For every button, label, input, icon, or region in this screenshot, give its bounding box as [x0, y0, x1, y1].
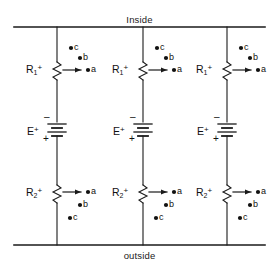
branch-2-upper-node-c-dot — [155, 46, 159, 50]
figure-canvas: Inside outside R1+ E+ – + R2+ R1+ E+ – +… — [0, 0, 279, 271]
branch-2-battery-positive-sign: + — [129, 134, 135, 144]
branch-2-lower-resistor-symbol — [139, 185, 147, 203]
outside-boundary-label: outside — [0, 250, 279, 261]
branch-3-upper-resistor-label: R1+ — [196, 64, 212, 76]
branch-3-battery-label: E+ — [197, 126, 209, 137]
branch-2-battery-label: E+ — [113, 126, 125, 137]
branch-2-upper-resistor-superscript: + — [124, 63, 129, 72]
branch-2-lower-resistor-label: R2+ — [112, 187, 128, 199]
branch-1-upper-node-c-dot — [69, 46, 73, 50]
branch-3-lower-node-a-dot — [256, 190, 260, 194]
branch-2-lower-node-b-dot — [164, 203, 168, 207]
branch-2-upper-node-a-dot — [172, 68, 176, 72]
branch-3-lower-node-c-label: c — [243, 212, 248, 222]
branch-1-lower-resistor-label: R2+ — [26, 187, 42, 199]
branch-3-upper-node-b-label: b — [253, 52, 258, 62]
branch-1-lower-node-b-dot — [78, 203, 82, 207]
branch-3-lower-resistor-superscript: + — [208, 186, 213, 195]
branch-1-lower-node-a-dot — [86, 190, 90, 194]
branch-3-battery-positive-sign: + — [213, 134, 219, 144]
branch-2-lower-node-a-dot — [172, 190, 176, 194]
branch-3-lower-resistor-symbol — [223, 185, 231, 203]
branch-1-battery-label: E+ — [27, 126, 39, 137]
branch-2-upper-resistor-label: R1+ — [112, 64, 128, 76]
inside-boundary-label: Inside — [0, 14, 279, 25]
branch-2-upper-flow-arrow-head — [161, 67, 167, 72]
branch-2-lower-node-a-label: a — [177, 186, 182, 196]
branch-1-upper-node-b-dot — [78, 56, 82, 60]
circuit-schematic — [0, 0, 279, 271]
branch-3-upper-node-a-label: a — [261, 64, 266, 74]
branch-1-lower-flow-arrow-head — [75, 189, 81, 194]
branch-2-battery-superscript: + — [120, 125, 125, 134]
branch-2-lower-resistor-superscript: + — [124, 186, 129, 195]
branch-3-lower-flow-arrow-head — [245, 189, 251, 194]
branch-3-battery-negative-sign: – — [214, 112, 220, 122]
branch-3-lower-node-b-dot — [248, 203, 252, 207]
branch-3-upper-node-c-label: c — [244, 42, 249, 52]
branch-2-upper-node-b-dot — [164, 56, 168, 60]
branch-1-lower-resistor-symbol — [53, 185, 61, 203]
branch-3-upper-resistor-superscript: + — [208, 63, 213, 72]
branch-1-lower-node-a-label: a — [91, 186, 96, 196]
branch-3-lower-node-c-dot — [238, 216, 242, 220]
branch-1-lower-resistor-superscript: + — [38, 186, 43, 195]
branch-2-lower-flow-arrow-head — [161, 189, 167, 194]
branch-2-lower-node-c-dot — [154, 216, 158, 220]
branch-1-upper-resistor-superscript: + — [38, 63, 43, 72]
branch-1-upper-resistor-label: R1+ — [26, 64, 42, 76]
branch-3-lower-node-a-label: a — [261, 186, 266, 196]
branch-1-lower-node-c-label: c — [73, 212, 78, 222]
branch-2-lower-node-c-label: c — [159, 212, 164, 222]
branch-1-upper-node-a-dot — [86, 68, 90, 72]
branch-2-upper-node-a-label: a — [177, 64, 182, 74]
branch-3-battery-superscript: + — [204, 125, 209, 134]
branch-3-lower-node-b-label: b — [253, 199, 258, 209]
branch-2-upper-node-b-label: b — [169, 52, 174, 62]
branch-3-upper-node-b-dot — [248, 56, 252, 60]
branch-2-upper-resistor-symbol — [139, 62, 147, 80]
ion-node-dots — [68, 46, 260, 220]
branch-2-lower-node-b-label: b — [169, 199, 174, 209]
branch-1-battery-superscript: + — [34, 125, 39, 134]
branch-1-lower-node-b-label: b — [83, 199, 88, 209]
branch-1-battery-negative-sign: – — [44, 112, 50, 122]
branch-3-upper-node-c-dot — [239, 46, 243, 50]
branch-3-lower-resistor-label: R2+ — [196, 187, 212, 199]
branch-1-upper-node-b-label: b — [83, 52, 88, 62]
branch-3-upper-node-a-dot — [256, 68, 260, 72]
branch-1-upper-resistor-symbol — [53, 62, 61, 80]
branch-3-upper-flow-arrow-head — [245, 67, 251, 72]
branch-3-upper-resistor-symbol — [223, 62, 231, 80]
branch-2-battery-negative-sign: – — [130, 112, 136, 122]
branch-1-battery-positive-sign: + — [43, 134, 49, 144]
branch-2-upper-node-c-label: c — [160, 42, 165, 52]
branch-1-upper-flow-arrow-head — [75, 67, 81, 72]
branch-1-lower-node-c-dot — [68, 216, 72, 220]
branch-1-upper-node-a-label: a — [91, 64, 96, 74]
branch-1-upper-node-c-label: c — [74, 42, 79, 52]
